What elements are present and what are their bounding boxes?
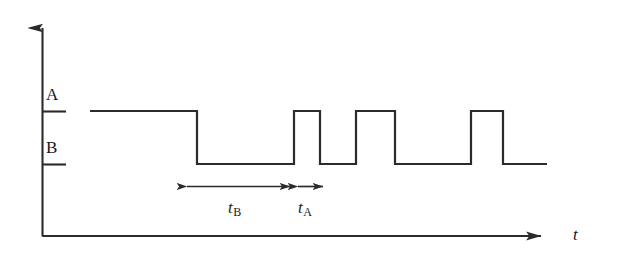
duration-label-tb-subscript: B <box>233 205 241 219</box>
level-label-b: B <box>46 139 57 156</box>
signal-waveform <box>90 111 547 164</box>
duration-label-ta-subscript: A <box>303 205 312 219</box>
duration-label-ta: tA <box>298 199 311 216</box>
level-label-a: A <box>46 86 58 103</box>
figure-canvas: A B tB tA t <box>0 0 617 265</box>
x-axis-label: t <box>573 226 578 243</box>
duration-label-tb: tB <box>228 199 241 216</box>
timing-diagram-svg <box>0 0 617 265</box>
